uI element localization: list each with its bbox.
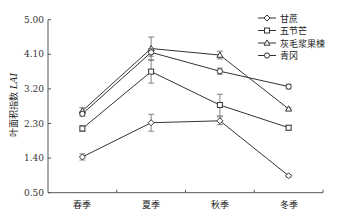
series-diamond (79, 114, 291, 179)
series-group (79, 37, 291, 179)
circle-marker-icon (264, 53, 269, 58)
square-marker-icon (286, 125, 291, 130)
series-triangle (79, 37, 291, 114)
square-marker-icon (265, 28, 270, 33)
y-axis-ticks: 0.501.402.303.204.105.00 (24, 15, 51, 198)
y-tick-label: 0.50 (24, 188, 44, 198)
square-marker-icon (149, 69, 154, 74)
x-tick-label: 夏季 (142, 199, 160, 210)
legend-item: 青冈 (258, 50, 298, 61)
series-circle (79, 49, 291, 117)
square-marker-icon (217, 103, 222, 108)
y-tick-label: 3.20 (24, 84, 44, 94)
y-tick-label: 4.10 (24, 49, 44, 59)
y-tick-label: 1.40 (24, 153, 44, 163)
legend: 甘蔗五节芒灰毛浆果楝青冈 (258, 13, 325, 62)
y-tick-label: 5.00 (24, 15, 44, 25)
circle-marker-icon (80, 111, 85, 116)
x-tick-label: 秋季 (211, 199, 229, 210)
legend-label: 甘蔗 (280, 13, 298, 24)
square-marker-icon (80, 126, 85, 131)
circle-marker-icon (217, 69, 222, 74)
series-line (82, 121, 288, 176)
x-tick-label: 春季 (73, 199, 91, 210)
legend-label: 五节芒 (280, 25, 307, 36)
legend-label: 青冈 (280, 50, 298, 61)
legend-item: 灰毛浆果楝 (258, 38, 325, 49)
diamond-marker-icon (79, 154, 85, 160)
circle-marker-icon (286, 84, 291, 89)
legend-item: 五节芒 (258, 25, 307, 36)
lai-line-chart: 0.501.402.303.204.105.00 春季夏季秋季冬季 叶面积指数 … (0, 0, 341, 218)
series-square (79, 60, 291, 131)
legend-item: 甘蔗 (258, 13, 298, 24)
y-tick-label: 2.30 (24, 119, 44, 129)
circle-marker-icon (149, 50, 154, 55)
x-tick-label: 冬季 (280, 199, 298, 210)
y-axis-label: 叶面积指数 LAI (8, 73, 19, 137)
diamond-marker-icon (148, 120, 154, 126)
legend-label: 灰毛浆果楝 (280, 38, 325, 49)
y-axis-label-italic: LAI (9, 73, 19, 90)
y-axis-label-main: 叶面积指数 (8, 89, 19, 137)
diamond-marker-icon (264, 15, 270, 21)
